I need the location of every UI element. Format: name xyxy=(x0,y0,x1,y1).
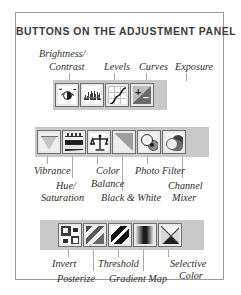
exposure-button[interactable]: + – xyxy=(130,83,154,107)
curves-button[interactable] xyxy=(105,83,129,107)
threshold-stripes-icon xyxy=(111,226,129,244)
brightness-contrast-button[interactable] xyxy=(55,83,79,107)
curve-icon xyxy=(108,86,126,104)
scales-icon xyxy=(90,133,108,151)
gray-wedge-icon xyxy=(115,133,133,151)
label-color-balance-line1: Color xyxy=(96,165,120,176)
leader-line-color-balance xyxy=(97,156,98,164)
gradient-icon xyxy=(136,226,154,244)
leader-line-hue-saturation xyxy=(72,156,73,178)
exposure-wedge-icon: + – xyxy=(133,86,151,104)
levels-button[interactable] xyxy=(80,83,104,107)
label-invert: Invert xyxy=(52,258,76,269)
special-adjustment-strip xyxy=(40,220,204,250)
x-cross-icon xyxy=(161,226,179,244)
vibrance-button[interactable] xyxy=(37,130,61,154)
leader-line-threshold xyxy=(118,249,119,257)
overlapping-circles-icon xyxy=(165,133,183,151)
label-hue-saturation-line2: Saturation xyxy=(41,192,84,203)
triangle-icon xyxy=(40,133,58,151)
label-selective-color-line1: Selective xyxy=(170,258,206,269)
hue-saturation-button[interactable] xyxy=(62,130,86,154)
label-channel-mixer-line1: Channel xyxy=(168,180,203,191)
label-levels: Levels xyxy=(104,61,130,72)
label-channel-mixer-line2: Mixer xyxy=(172,192,196,203)
label-brightness-contrast-line2: Contrast xyxy=(49,61,85,72)
label-brightness-contrast-line1: Brightness/ xyxy=(39,48,85,59)
label-exposure: Exposure xyxy=(175,61,213,72)
tonal-adjustment-strip: + – xyxy=(53,80,167,110)
label-threshold: Threshold xyxy=(98,258,139,269)
leader-line-posterize xyxy=(93,249,94,271)
leader-line-selective-color xyxy=(168,249,169,257)
color-bars-icon xyxy=(65,133,83,151)
leader-line-gradient-map xyxy=(143,249,144,271)
posterize-bands-icon xyxy=(86,226,104,244)
threshold-button[interactable] xyxy=(108,223,132,247)
label-curves: Curves xyxy=(139,61,168,72)
gradient-map-button[interactable] xyxy=(133,223,157,247)
leader-line-photo-filter xyxy=(147,156,148,164)
label-vibrance: Vibrance xyxy=(34,165,71,176)
invert-button[interactable] xyxy=(58,223,82,247)
page-title: BUTTONS ON THE ADJUSTMENT PANEL xyxy=(16,26,225,37)
label-black-and-white: Black & White xyxy=(101,192,161,203)
label-posterize: Posterize xyxy=(57,273,95,284)
label-hue-saturation-line1: Hue/ xyxy=(56,180,76,191)
color-adjustment-strip xyxy=(35,127,209,157)
leader-line-invert xyxy=(68,249,69,257)
sun-icon xyxy=(58,86,76,104)
leader-line-vibrance xyxy=(47,156,48,164)
label-photo-filter: Photo Filter xyxy=(135,165,185,176)
selective-color-button[interactable] xyxy=(158,223,182,247)
leader-line-exposure xyxy=(186,73,187,81)
inverted-squares-icon xyxy=(61,226,79,244)
label-selective-color-line2: Color xyxy=(179,270,203,281)
black-and-white-button[interactable] xyxy=(112,130,136,154)
label-gradient-map: Gradient Map xyxy=(109,273,167,284)
channel-mixer-button[interactable] xyxy=(162,130,186,154)
histogram-icon xyxy=(83,86,101,104)
posterize-button[interactable] xyxy=(83,223,107,247)
color-balance-button[interactable] xyxy=(87,130,111,154)
photo-filter-button[interactable] xyxy=(137,130,161,154)
adjustment-panel-figure: BUTTONS ON THE ADJUSTMENT PANEL Brightne… xyxy=(15,12,224,280)
lens-circles-icon xyxy=(140,133,158,151)
label-color-balance-line2: Balance xyxy=(91,178,124,189)
